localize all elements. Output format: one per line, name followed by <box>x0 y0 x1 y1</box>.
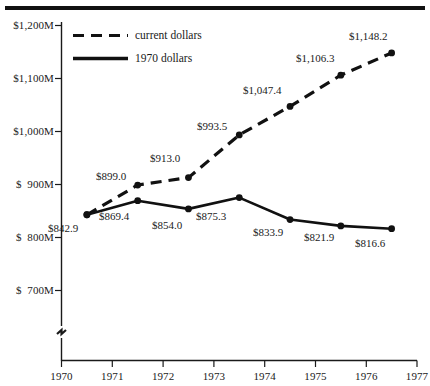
data-label-current-1973: $993.5 <box>197 120 227 132</box>
data-point <box>287 216 294 223</box>
data-point <box>236 132 243 139</box>
data-label-constant-1974: $833.9 <box>253 226 283 238</box>
data-point <box>337 222 344 229</box>
data-label-current-1970: $842.9 <box>48 222 78 234</box>
line-chart-plot <box>0 0 430 386</box>
x-axis-label-1976: 1976 <box>344 370 388 382</box>
data-label-constant-1973: $875.3 <box>196 210 226 222</box>
x-axis-label-1972: 1972 <box>141 370 185 382</box>
x-axis-label-1974: 1974 <box>243 370 287 382</box>
data-point <box>287 103 294 110</box>
data-label-current-1974: $1,047.4 <box>243 84 282 96</box>
data-point <box>134 182 141 189</box>
data-label-current-1972: $913.0 <box>150 152 180 164</box>
data-point <box>83 211 90 218</box>
series-current-dollars <box>83 50 395 219</box>
data-label-current-1971: $899.0 <box>96 170 126 182</box>
data-label-current-1976: $1,148.2 <box>349 30 388 42</box>
y-axis-label-800: $ 800M <box>0 231 54 243</box>
data-label-constant-1976: $816.6 <box>355 237 385 249</box>
data-label-constant-1972: $854.0 <box>152 219 182 231</box>
x-axis-label-1977: 1977 <box>395 370 430 382</box>
legend-label-current-dollars: current dollars <box>135 29 202 41</box>
data-point <box>337 72 344 79</box>
data-point <box>388 50 395 57</box>
x-axis-label-1975: 1975 <box>294 370 338 382</box>
data-label-constant-1975: $821.9 <box>304 231 334 243</box>
data-label-current-1975: $1,106.3 <box>296 52 335 64</box>
data-point <box>185 205 192 212</box>
data-point <box>185 174 192 181</box>
chart-figure: $1,200M $1,100M $1,000M $ 900M $ 800M $ … <box>0 0 430 386</box>
y-axis-label-700: $ 700M <box>0 284 54 296</box>
series-1970-dollars <box>83 194 395 232</box>
y-axis-label-900: $ 900M <box>0 178 54 190</box>
series-line-1970-dollars <box>87 198 392 229</box>
y-axis-label-1100: $1,100M <box>0 72 54 84</box>
x-axis-label-1970: 1970 <box>40 370 84 382</box>
legend-label-1970-dollars: 1970 dollars <box>135 52 192 64</box>
x-axis-label-1973: 1973 <box>192 370 236 382</box>
axis-break-icon <box>57 330 66 334</box>
y-axis-label-1000: $1,000M <box>0 125 54 137</box>
data-point <box>134 197 141 204</box>
x-axis-label-1971: 1971 <box>90 370 134 382</box>
data-point <box>388 225 395 232</box>
data-label-constant-1971: $869.4 <box>99 210 129 222</box>
data-point <box>236 194 243 201</box>
y-axis-label-1200: $1,200M <box>0 19 54 31</box>
